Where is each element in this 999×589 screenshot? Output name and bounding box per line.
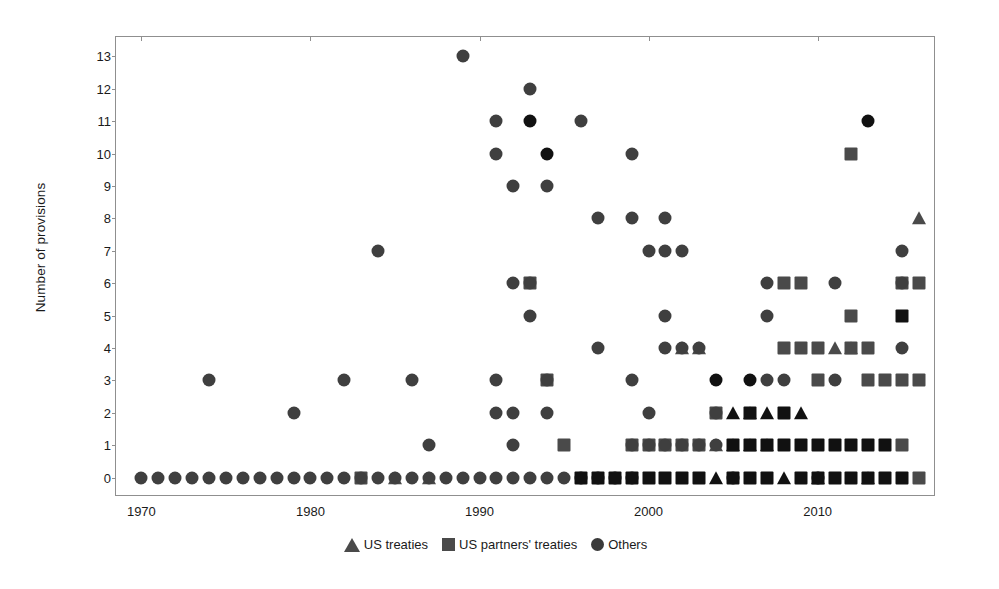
data-point-square — [845, 147, 858, 160]
data-point-circle — [422, 439, 435, 452]
data-point-square — [794, 471, 807, 484]
y-tick-label: 1 — [104, 438, 111, 453]
y-axis-title: Number of provisions — [33, 38, 48, 458]
legend-item-label: US partners' treaties — [459, 537, 577, 552]
data-point-square — [727, 439, 740, 452]
data-point-circle — [608, 471, 621, 484]
data-point-triangle — [912, 212, 926, 225]
data-point-circle — [693, 439, 706, 452]
y-tick-label: 11 — [98, 114, 112, 129]
legend-item-label: Others — [608, 537, 647, 552]
data-point-square — [811, 341, 824, 354]
data-point-circle — [828, 277, 841, 290]
y-tick-mark — [112, 154, 116, 155]
data-point-circle — [710, 406, 723, 419]
data-point-square — [896, 309, 909, 322]
x-tick-label: 1970 — [127, 504, 156, 519]
y-tick-mark — [112, 413, 116, 414]
x-tick-label: 1990 — [465, 504, 494, 519]
data-point-circle — [202, 471, 215, 484]
data-point-circle — [642, 406, 655, 419]
data-point-circle — [862, 115, 875, 128]
data-point-circle — [676, 244, 689, 257]
data-point-square — [828, 439, 841, 452]
data-point-square — [794, 277, 807, 290]
data-point-circle — [574, 115, 587, 128]
data-point-circle — [744, 374, 757, 387]
data-point-circle — [558, 471, 571, 484]
data-point-circle — [422, 471, 435, 484]
data-point-circle — [405, 471, 418, 484]
data-point-circle — [169, 471, 182, 484]
data-point-circle — [896, 341, 909, 354]
y-tick-label: 8 — [104, 211, 111, 226]
data-point-circle — [304, 471, 317, 484]
data-point-circle — [524, 277, 537, 290]
y-tick-mark — [112, 251, 116, 252]
data-point-square — [879, 374, 892, 387]
y-tick-mark — [112, 478, 116, 479]
y-tick-label: 5 — [104, 308, 111, 323]
data-point-circle — [253, 471, 266, 484]
data-point-circle — [338, 374, 351, 387]
y-tick-label: 4 — [104, 340, 111, 355]
data-point-circle — [541, 471, 554, 484]
data-point-circle — [625, 439, 638, 452]
data-point-square — [777, 277, 790, 290]
data-point-square — [777, 406, 790, 419]
legend-triangle-icon — [344, 538, 360, 552]
data-point-circle — [676, 341, 689, 354]
data-point-triangle — [828, 341, 842, 354]
y-tick-mark — [112, 56, 116, 57]
data-point-circle — [507, 406, 520, 419]
y-tick-mark — [112, 89, 116, 90]
data-point-square — [744, 406, 757, 419]
data-point-circle — [287, 406, 300, 419]
data-point-circle — [405, 374, 418, 387]
data-point-circle — [659, 309, 672, 322]
chart-legend: US treatiesUS partners' treatiesOthers — [0, 537, 999, 552]
data-point-square — [760, 471, 773, 484]
data-point-square — [744, 471, 757, 484]
data-point-square — [913, 471, 926, 484]
data-point-circle — [659, 244, 672, 257]
scatter-chart-figure: Number of provisions 012345678910111213 … — [0, 0, 999, 589]
legend-item[interactable]: US partners' treaties — [442, 537, 577, 552]
data-point-circle — [625, 374, 638, 387]
data-point-circle — [811, 471, 824, 484]
data-point-circle — [760, 309, 773, 322]
x-tick-mark — [818, 36, 819, 41]
data-point-circle — [355, 471, 368, 484]
y-tick-label: 12 — [97, 81, 111, 96]
data-point-circle — [236, 471, 249, 484]
data-point-circle — [372, 471, 385, 484]
y-tick-mark — [112, 316, 116, 317]
data-point-circle — [541, 374, 554, 387]
data-point-circle — [727, 471, 740, 484]
y-tick-mark — [112, 348, 116, 349]
data-point-square — [777, 439, 790, 452]
data-point-circle — [490, 374, 503, 387]
data-point-circle — [710, 374, 723, 387]
y-tick-mark — [112, 445, 116, 446]
data-point-square — [845, 309, 858, 322]
x-tick-label: 1980 — [296, 504, 325, 519]
legend-item[interactable]: Others — [591, 537, 647, 552]
data-point-circle — [642, 439, 655, 452]
data-point-circle — [507, 277, 520, 290]
y-tick-label: 7 — [104, 243, 111, 258]
data-point-circle — [388, 471, 401, 484]
data-point-square — [862, 374, 875, 387]
legend-item[interactable]: US treaties — [344, 537, 428, 552]
data-point-square — [913, 277, 926, 290]
data-point-square — [659, 471, 672, 484]
data-point-circle — [625, 147, 638, 160]
y-tick-label: 9 — [104, 179, 111, 194]
y-tick-label: 2 — [104, 405, 111, 420]
data-point-square — [845, 341, 858, 354]
data-point-circle — [456, 471, 469, 484]
data-point-circle — [524, 309, 537, 322]
data-point-circle — [135, 471, 148, 484]
data-point-circle — [490, 115, 503, 128]
data-point-square — [558, 439, 571, 452]
